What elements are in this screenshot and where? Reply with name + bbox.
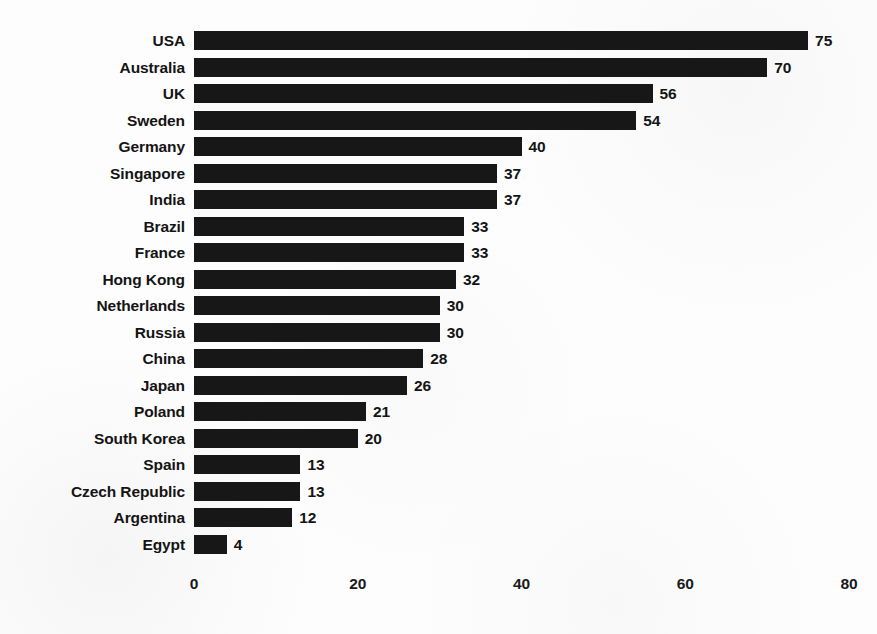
bar: [194, 164, 497, 183]
bar-value-label: 21: [373, 403, 390, 421]
bar-row: South Korea20: [0, 426, 877, 453]
bar: [194, 31, 808, 50]
bar-value-label: 56: [660, 85, 677, 103]
category-label: Spain: [0, 456, 185, 474]
bar: [194, 482, 300, 501]
bar: [194, 84, 653, 103]
bar-chart-figure: USA75Australia70UK56Sweden54Germany40Sin…: [0, 0, 877, 634]
bar: [194, 296, 440, 315]
bar-value-label: 20: [365, 430, 382, 448]
x-axis: 020406080: [0, 575, 877, 605]
category-label: Australia: [0, 59, 185, 77]
bar-row: Argentina12: [0, 505, 877, 532]
category-label: China: [0, 350, 185, 368]
x-axis-tick-label: 80: [840, 575, 857, 593]
category-label: Netherlands: [0, 297, 185, 315]
bar: [194, 455, 300, 474]
category-label: Argentina: [0, 509, 185, 527]
category-label: Sweden: [0, 112, 185, 130]
bar-row: Czech Republic13: [0, 479, 877, 506]
bar-value-label: 13: [307, 456, 324, 474]
bar: [194, 111, 636, 130]
bar-value-label: 37: [504, 191, 521, 209]
bar-value-label: 26: [414, 377, 431, 395]
category-label: USA: [0, 32, 185, 50]
bar-row: USA75: [0, 28, 877, 55]
bar-value-label: 70: [774, 59, 791, 77]
category-label: Germany: [0, 138, 185, 156]
bar-value-label: 13: [307, 483, 324, 501]
bar-value-label: 30: [447, 324, 464, 342]
bar-row: Brazil33: [0, 214, 877, 241]
bar-row: Egypt4: [0, 532, 877, 559]
category-label: Singapore: [0, 165, 185, 183]
category-label: Poland: [0, 403, 185, 421]
category-label: Hong Kong: [0, 271, 185, 289]
bar-row: France33: [0, 240, 877, 267]
bar: [194, 402, 366, 421]
bar: [194, 323, 440, 342]
bar-row: Australia70: [0, 55, 877, 82]
bar-value-label: 54: [643, 112, 660, 130]
bar: [194, 270, 456, 289]
bar-row: Singapore37: [0, 161, 877, 188]
bar-value-label: 40: [529, 138, 546, 156]
x-axis-tick-label: 20: [349, 575, 366, 593]
bar-row: Hong Kong32: [0, 267, 877, 294]
bar-row: India37: [0, 187, 877, 214]
category-label: Egypt: [0, 536, 185, 554]
bar-value-label: 33: [471, 244, 488, 262]
bar-value-label: 4: [234, 536, 243, 554]
bar-value-label: 75: [815, 32, 832, 50]
bar-row: China28: [0, 346, 877, 373]
bar-row: Germany40: [0, 134, 877, 161]
bar-value-label: 28: [430, 350, 447, 368]
bar: [194, 349, 423, 368]
bar-value-label: 12: [299, 509, 316, 527]
bar: [194, 217, 464, 236]
category-label: UK: [0, 85, 185, 103]
bar: [194, 376, 407, 395]
bar-row: Spain13: [0, 452, 877, 479]
bar: [194, 190, 497, 209]
bar-row: Netherlands30: [0, 293, 877, 320]
bar-row: Poland21: [0, 399, 877, 426]
plot-area: USA75Australia70UK56Sweden54Germany40Sin…: [0, 0, 877, 634]
bar-value-label: 32: [463, 271, 480, 289]
bar: [194, 429, 358, 448]
bar: [194, 535, 227, 554]
bar-value-label: 37: [504, 165, 521, 183]
bar: [194, 58, 767, 77]
x-axis-tick-label: 60: [677, 575, 694, 593]
bar-value-label: 30: [447, 297, 464, 315]
bar-row: Japan26: [0, 373, 877, 400]
bar-row: Sweden54: [0, 108, 877, 135]
x-axis-tick-label: 40: [513, 575, 530, 593]
category-label: Russia: [0, 324, 185, 342]
category-label: France: [0, 244, 185, 262]
category-label: South Korea: [0, 430, 185, 448]
bar: [194, 137, 522, 156]
category-label: Brazil: [0, 218, 185, 236]
category-label: India: [0, 191, 185, 209]
bar-value-label: 33: [471, 218, 488, 236]
bar: [194, 508, 292, 527]
bar-row: Russia30: [0, 320, 877, 347]
bar: [194, 243, 464, 262]
bar-row: UK56: [0, 81, 877, 108]
category-label: Japan: [0, 377, 185, 395]
category-label: Czech Republic: [0, 483, 185, 501]
x-axis-tick-label: 0: [190, 575, 199, 593]
